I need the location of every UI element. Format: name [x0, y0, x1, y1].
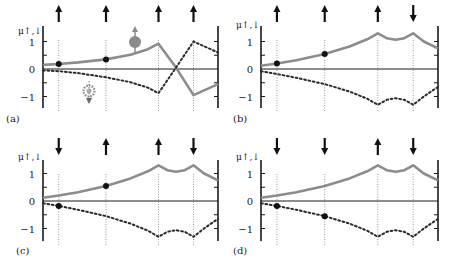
y-axis-label: μ↑,↓	[236, 20, 260, 30]
y-tick-label: 0	[247, 196, 253, 207]
panel-label: (d)	[233, 245, 247, 256]
panel-label: (a)	[6, 113, 20, 124]
spin-up-arrow-icon	[55, 5, 62, 22]
y-tick-label: −1	[20, 224, 35, 235]
y-tick-label: 1	[29, 169, 35, 180]
site-marker	[56, 203, 62, 209]
site-marker	[322, 213, 328, 219]
y-tick-label: 1	[29, 37, 35, 48]
spin-down-arrow-icon	[410, 138, 417, 155]
y-axis-label: μ↑,↓	[18, 26, 42, 36]
spin-down-potential-curve	[261, 203, 438, 237]
spin-down-potential-curve	[261, 71, 438, 105]
panel-label: (b)	[233, 113, 247, 124]
site-marker	[103, 183, 109, 189]
y-tick-label: 1	[247, 169, 253, 180]
spin-up-arrow-icon	[103, 138, 110, 155]
spin-up-potential-curve	[261, 165, 438, 197]
panel-c: 10−1μ↑,↓(c)	[16, 138, 218, 256]
spin-up-electron-icon	[129, 26, 141, 52]
spin-up-arrow-icon	[155, 5, 162, 22]
spin-down-potential-curve	[43, 203, 218, 237]
y-tick-label: 0	[29, 64, 35, 75]
spin-up-potential-curve	[43, 165, 218, 197]
spin-up-arrow-icon	[374, 5, 381, 22]
site-marker	[274, 203, 280, 209]
panel-a: 10−1μ↑,↓(a)	[6, 5, 218, 124]
panel-b: 10−1μ↑,↓(b)	[233, 5, 438, 124]
y-tick-label: 1	[247, 37, 253, 48]
spin-up-arrow-icon	[103, 5, 110, 22]
spin-up-arrow-icon	[190, 5, 197, 22]
site-marker	[322, 51, 328, 57]
panel-d: 10−1μ↑,↓(d)	[233, 138, 438, 256]
spin-up-arrow-icon	[273, 5, 280, 22]
y-tick-label: 0	[29, 196, 35, 207]
spin-down-arrow-icon	[55, 138, 62, 155]
y-tick-label: −1	[238, 92, 253, 103]
spin-up-arrow-icon	[155, 138, 162, 155]
spin-up-potential-curve	[261, 33, 438, 65]
panel-label: (c)	[16, 245, 30, 256]
site-marker	[274, 61, 280, 67]
spin-down-arrow-icon	[273, 138, 280, 155]
y-tick-label: −1	[20, 92, 35, 103]
spin-chemical-potential-figure: 10−1μ↑,↓(a) 10−1μ↑,↓(b) 10−1μ↑,↓(c) 10−1…	[0, 0, 457, 266]
spin-down-arrow-icon	[410, 5, 417, 22]
spin-down-arrow-icon	[190, 138, 197, 155]
spin-down-electron-icon	[84, 81, 95, 104]
spin-down-arrow-icon	[321, 138, 328, 155]
y-tick-label: 0	[247, 64, 253, 75]
y-axis-label: μ↑,↓	[18, 152, 42, 162]
y-axis-label: μ↑,↓	[236, 152, 260, 162]
spin-down-potential-curve	[43, 42, 218, 94]
y-tick-label: −1	[238, 224, 253, 235]
site-marker	[103, 56, 109, 62]
spin-up-arrow-icon	[374, 138, 381, 155]
site-marker	[56, 61, 62, 67]
spin-up-arrow-icon	[321, 5, 328, 22]
